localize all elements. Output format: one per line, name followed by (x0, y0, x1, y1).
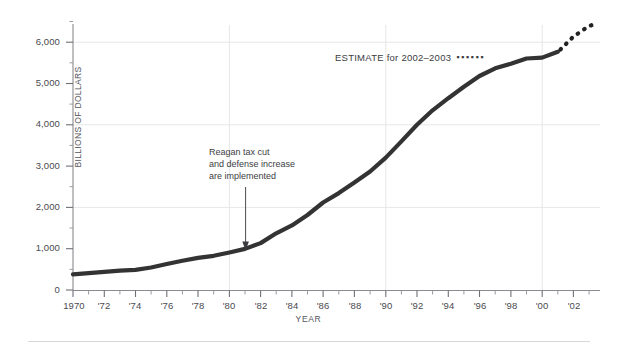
x-tick-label-98: '98 (497, 300, 525, 311)
x-tick-label-74: '74 (121, 300, 149, 311)
reagan-annotation: Reagan tax cut and defense increase are … (209, 146, 295, 183)
x-tick-label-94: '94 (434, 300, 462, 311)
y-tick-label-5000: 5,000 (14, 77, 60, 88)
x-tick-label-76: '76 (153, 300, 181, 311)
x-tick-label-90: '90 (372, 300, 400, 311)
figure-container: 6,000 5,000 4,000 3,000 2,000 1,000 0 BI… (0, 0, 617, 349)
y-tick-label-2000: 2,000 (14, 201, 60, 212)
x-tick-label-86: '86 (309, 300, 337, 311)
x-tick-label-96: '96 (466, 300, 494, 311)
y-tick-label-0: 0 (14, 284, 60, 295)
x-axis-title: YEAR (0, 314, 617, 324)
y-tick-label-1000: 1,000 (14, 242, 60, 253)
x-tick-label-72: '72 (90, 300, 118, 311)
y-axis (66, 22, 73, 291)
dotted-line-swatch-icon: ▪▪▪▪▪▪ (456, 53, 485, 62)
x-tick-label-78: '78 (184, 300, 212, 311)
horizontal-gridlines (73, 42, 600, 207)
y-tick-label-6000: 6,000 (14, 36, 60, 47)
x-tick-label-82: '82 (247, 300, 275, 311)
x-axis (73, 291, 600, 298)
y-axis-title: BILLIONS OF DOLLARS (73, 47, 83, 187)
footer-divider (28, 341, 590, 342)
x-tick-label-80: '80 (215, 300, 243, 311)
data-line-estimate (561, 24, 598, 50)
y-tick-label-3000: 3,000 (14, 160, 60, 171)
y-tick-label-4000: 4,000 (14, 118, 60, 129)
annotation-arrow (242, 187, 249, 251)
x-tick-label-92: '92 (403, 300, 431, 311)
estimate-note: ESTIMATE for 2002–2003 ▪▪▪▪▪▪ (335, 52, 485, 63)
x-tick-label-84: '84 (278, 300, 306, 311)
annotation-line-1: Reagan tax cut (209, 146, 295, 158)
data-line-federal-debt (73, 52, 558, 274)
annotation-line-3: are implemented (209, 170, 295, 182)
x-tick-label-02: '02 (560, 300, 588, 311)
chart-canvas (0, 0, 617, 349)
x-tick-label-1970: 1970 (56, 300, 92, 311)
estimate-note-label: ESTIMATE for 2002–2003 (335, 52, 451, 63)
x-tick-label-88: '88 (341, 300, 369, 311)
annotation-line-2: and defense increase (209, 158, 295, 170)
x-tick-label-00: '00 (528, 300, 556, 311)
